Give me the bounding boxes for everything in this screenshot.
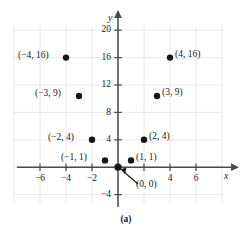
ytick-label-16: 16: [93, 52, 111, 62]
data-point: [63, 54, 69, 60]
data-point: [102, 157, 108, 163]
point-label-neg1-1: (−1, 1): [61, 152, 87, 162]
ytick-label-4: 4: [93, 134, 111, 144]
xtick-label-neg4: −4: [56, 173, 76, 183]
point-label-4-16: (4, 16): [175, 49, 200, 59]
point-label-neg4-16: (−4, 16): [18, 50, 49, 60]
figure-panel: x y −6 −4 −2 4 6 20 16 12 8 4 −4 (−4, 16…: [0, 0, 252, 233]
ytick-label-20: 20: [93, 24, 111, 34]
point-label-1-1: (1, 1): [136, 152, 157, 162]
figure-caption: (a): [0, 214, 252, 224]
data-point: [114, 164, 121, 171]
xtick-label-pos6: 6: [190, 173, 202, 183]
point-label-neg2-4: (−2, 4): [48, 132, 74, 142]
xtick-label-neg2: −2: [82, 173, 102, 183]
ytick-label-12: 12: [93, 79, 111, 89]
data-point: [141, 137, 147, 143]
point-label-neg3-9: (−3, 9): [35, 88, 61, 98]
plot-canvas: [0, 0, 252, 233]
ytick-label-neg4: −4: [90, 189, 111, 199]
scatter-plot: x y −6 −4 −2 4 6 20 16 12 8 4 −4 (−4, 16…: [0, 0, 252, 233]
x-axis-label: x: [224, 170, 228, 181]
x-axis: [17, 163, 239, 171]
data-point: [128, 157, 134, 163]
y-axis: [114, 10, 122, 207]
xtick-label-neg6: −6: [30, 173, 50, 183]
data-point: [167, 54, 173, 60]
point-label-0-0: (0, 0): [136, 179, 157, 189]
point-label-3-9: (3, 9): [162, 87, 183, 97]
ytick-label-8: 8: [93, 107, 111, 117]
data-point: [154, 93, 160, 99]
point-label-2-4: (2, 4): [149, 131, 170, 141]
y-axis-label: y: [108, 12, 112, 23]
xtick-label-pos4: 4: [164, 173, 176, 183]
data-point: [76, 93, 82, 99]
